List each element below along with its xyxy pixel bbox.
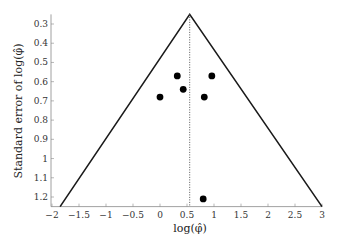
x-tick-label: −0.5 <box>122 210 144 220</box>
x-tick-label: −1.5 <box>68 210 90 220</box>
data-point <box>201 94 208 101</box>
y-tick-label: 0.6 <box>34 77 49 87</box>
x-tick-label: 0 <box>157 210 163 220</box>
y-tick-label: 1.2 <box>34 192 48 202</box>
x-tick-label: 2.5 <box>288 210 303 220</box>
y-axis-title: Standard error of log(φ̂) <box>12 43 25 178</box>
y-tick-label: 0.9 <box>34 134 49 144</box>
data-point <box>157 94 164 101</box>
x-tick-label: −2 <box>45 210 58 220</box>
y-tick-label: 0.8 <box>34 115 49 125</box>
data-point <box>208 73 215 80</box>
data-points <box>157 73 216 203</box>
x-axis-title: log(φ̂) <box>173 222 206 235</box>
y-tick-label: 1.1 <box>34 173 48 183</box>
y-tick-label: 0.3 <box>34 19 49 29</box>
funnel-boundary <box>60 14 322 206</box>
funnel-lines <box>60 14 322 206</box>
y-tick-label: 1 <box>42 154 48 164</box>
x-tick-label: 1 <box>211 210 217 220</box>
funnel-plot: −2−1.5−1−0.500.511.522.530.30.40.50.60.7… <box>0 0 343 248</box>
data-point <box>174 73 181 80</box>
data-point <box>200 196 207 203</box>
x-tick-label: 3 <box>319 210 325 220</box>
y-tick-label: 0.4 <box>34 38 49 48</box>
x-tick-label: 1.5 <box>234 210 249 220</box>
axes: −2−1.5−1−0.500.511.522.530.30.40.50.60.7… <box>34 14 325 219</box>
y-tick-label: 0.5 <box>34 57 49 67</box>
y-tick-label: 0.7 <box>34 96 49 106</box>
x-tick-label: −1 <box>99 210 112 220</box>
data-point <box>180 86 187 93</box>
x-tick-label: 2 <box>265 210 271 220</box>
x-tick-label: 0.5 <box>180 210 195 220</box>
